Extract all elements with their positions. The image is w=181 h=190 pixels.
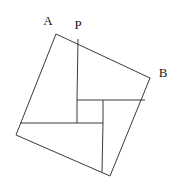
geometry-figure: A P B bbox=[0, 0, 181, 190]
cevian-R-to-inner-bottomright bbox=[102, 123, 103, 172]
vertex-label-B: B bbox=[159, 65, 168, 80]
inner-square bbox=[77, 100, 103, 123]
pinwheel-diagram: A P B bbox=[0, 0, 181, 190]
vertex-label-A: A bbox=[43, 13, 53, 28]
vertex-label-P: P bbox=[74, 17, 81, 32]
outer-quadrilateral bbox=[16, 34, 150, 176]
cevian-P-to-inner-topleft bbox=[77, 39, 78, 100]
